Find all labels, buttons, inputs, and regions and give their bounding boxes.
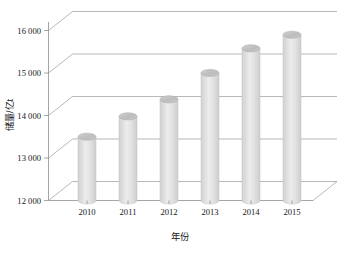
y-tick-label-14000: 14 000 xyxy=(17,111,41,121)
x-axis-title: 年份 xyxy=(171,231,190,242)
x-tick-label-2011: 2011 xyxy=(120,207,137,217)
y-tick-label-15000: 15 000 xyxy=(17,68,41,78)
y-tick-label-16000: 16 000 xyxy=(17,26,41,36)
x-tick-label-2010: 2010 xyxy=(78,207,95,217)
x-tick-label-2015: 2015 xyxy=(283,207,300,217)
y-axis-title: 储量/亿t xyxy=(4,99,15,132)
bar-2010[interactable] xyxy=(78,133,96,204)
y-tick-label-13000: 13 000 xyxy=(17,153,41,163)
cylinder-bar-chart-svg: 16 000 15 000 14 000 13 000 12 000 储量/亿t xyxy=(0,0,338,254)
bar-2013[interactable] xyxy=(201,69,219,204)
gridline-16000 xyxy=(49,12,338,31)
bar-2011[interactable] xyxy=(119,113,137,204)
chart-container: 16 000 15 000 14 000 13 000 12 000 储量/亿t xyxy=(0,0,338,254)
bars-group xyxy=(78,31,301,204)
bar-2015[interactable] xyxy=(283,31,301,204)
x-tick-label-2014: 2014 xyxy=(242,207,260,217)
bar-2012[interactable] xyxy=(160,96,178,204)
bar-2014[interactable] xyxy=(242,45,260,204)
floor-right-edge xyxy=(313,182,337,201)
x-tick-label-2012: 2012 xyxy=(160,207,177,217)
x-axis-group: 2010 2011 2012 2013 2014 2015 年份 xyxy=(78,201,300,243)
y-axis-group: 16 000 15 000 14 000 13 000 12 000 储量/亿t xyxy=(4,22,49,206)
y-tick-label-12000: 12 000 xyxy=(17,196,41,206)
x-tick-label-2013: 2013 xyxy=(201,207,218,217)
